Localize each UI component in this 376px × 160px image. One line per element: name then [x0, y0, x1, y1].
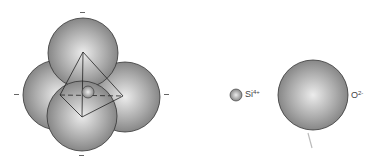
charge-mark-bottom: [79, 155, 84, 156]
silicon-label: Si4+: [245, 90, 260, 99]
silicon-legend-sphere: [230, 89, 242, 101]
charge-mark-right: [164, 94, 169, 95]
oxygen-legend-sphere: [278, 60, 348, 130]
charge-mark-top: [80, 12, 85, 13]
stray-mark: [308, 133, 312, 148]
oxygen-label: O2-: [351, 91, 363, 100]
charge-mark-left: [14, 94, 19, 95]
tetrahedron-diagram: [0, 0, 376, 160]
silicon-sphere-center: [82, 86, 94, 98]
